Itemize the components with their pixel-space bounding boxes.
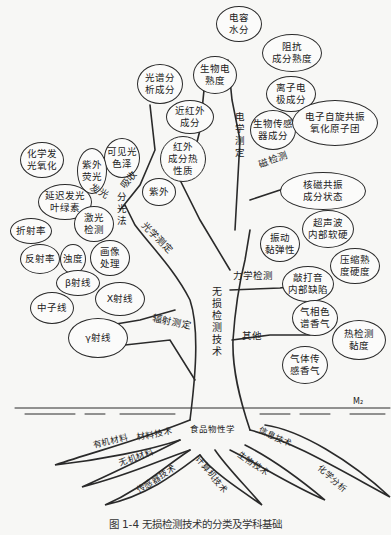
bubble-xray: X射线: [95, 282, 145, 316]
ground-mark: M₂: [353, 397, 363, 406]
bubble-gas-sensor: 气体传 感香气: [282, 346, 328, 384]
bubble-laser-detection: 激光 检测: [74, 206, 114, 242]
bubble-reflectance: 反射率: [20, 244, 60, 274]
trunk-title: 无损检测技术: [208, 286, 223, 358]
bubble-thermal-viscosity: 热检测 黏度: [332, 320, 386, 360]
root-food-physics: 食品物性学: [190, 422, 235, 434]
label-electrical: 电学测定: [232, 112, 246, 160]
bubble-chemiluminescence: 化学发 光氧化: [20, 142, 64, 178]
bubble-nmr: 核磁共振 成分状态: [280, 172, 366, 210]
bubble-gc-aroma: 气相色 谱香气: [292, 300, 338, 336]
bubble-biosensor: 生物传感 器成分: [250, 110, 296, 150]
label-mechanical: 力学检测: [233, 268, 273, 282]
bubble-gamma: γ射线: [68, 318, 128, 358]
bubble-ir: 红外 成分热 性质: [160, 136, 206, 182]
bubble-vibration: 振动 黏弹性: [260, 226, 300, 262]
bubble-ultrasound: 超声波 内部软硬: [302, 210, 354, 248]
bubble-esr: 电子自旋共振 氧化原子团: [292, 100, 378, 146]
bubble-spectral-analysis: 光谱分 析成分: [137, 64, 183, 104]
bubble-bioelectric-ripeness: 生物电 熟度: [193, 56, 237, 94]
bubble-impedance: 阻抗 成分熟度: [262, 34, 322, 72]
bubble-beta: β射线: [56, 270, 100, 296]
bubble-tapping: 敲打音 内部缺陷: [282, 266, 334, 302]
label-spectroscopy: 分光法: [114, 192, 128, 228]
bubble-uv: 紫外: [142, 178, 176, 206]
bubble-image-processing: 画像 处理: [90, 240, 130, 276]
bubble-refraction: 折射率: [10, 218, 52, 244]
bubble-nir: 近红外 成分: [166, 100, 214, 134]
label-other: 其他: [242, 328, 262, 342]
figure-caption: 图 1-4 无损检测技术的分类及学科基础: [0, 516, 391, 531]
bubble-compression: 压缩熟 度硬度: [330, 248, 380, 284]
bubble-capacitance-moisture: 电容 水分: [216, 6, 262, 42]
bubble-neutron: 中子线: [30, 292, 74, 324]
